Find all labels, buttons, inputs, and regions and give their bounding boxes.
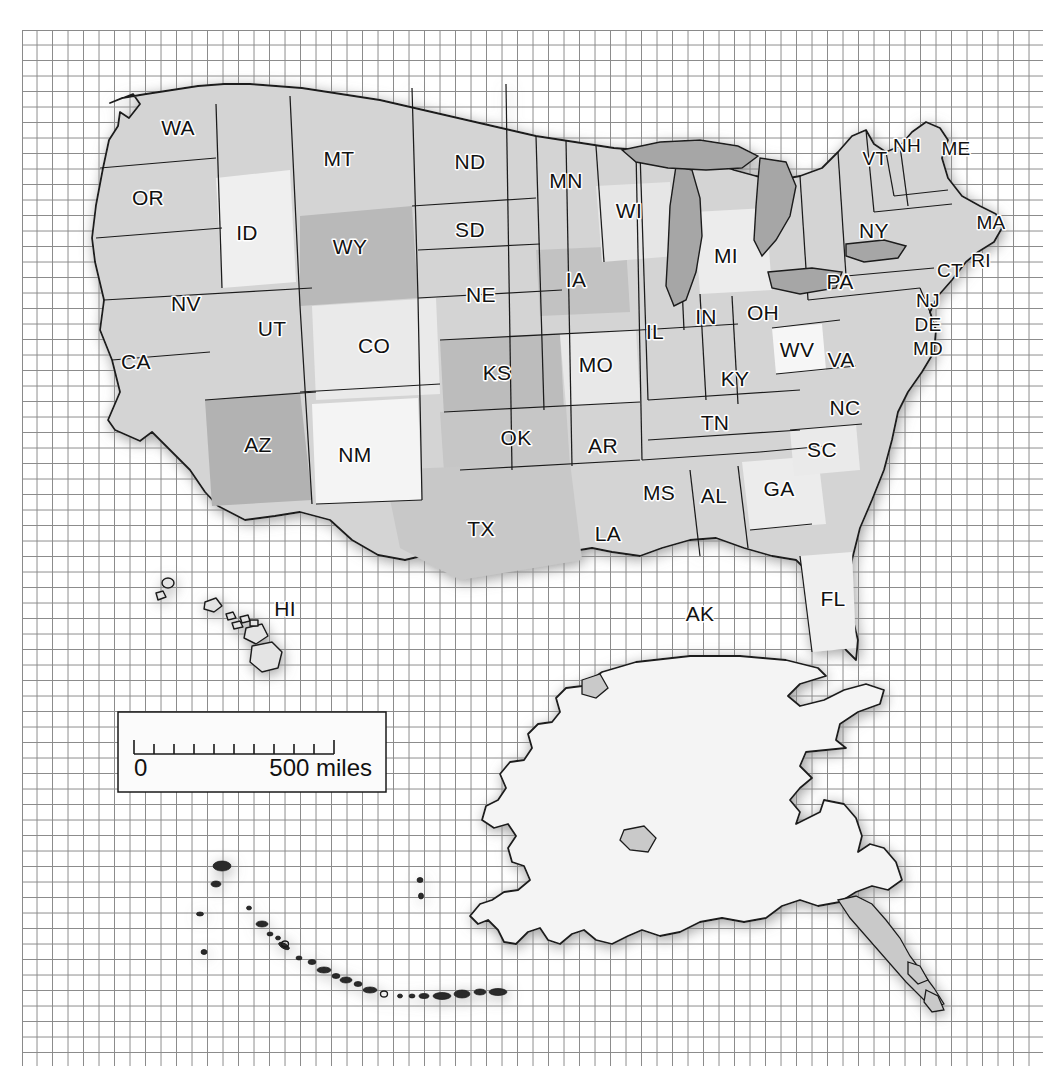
state-label-me[interactable]: ME [941,138,970,159]
state-label-tn[interactable]: TN [701,411,730,434]
scale-bar-max-label: 500 miles [269,754,372,781]
state-label-ar[interactable]: AR [588,434,618,457]
state-label-ms[interactable]: MS [643,481,675,504]
state-label-md[interactable]: MD [913,338,943,359]
state-label-mo[interactable]: MO [579,353,613,376]
state-label-ny[interactable]: NY [859,219,889,242]
state-label-oh[interactable]: OH [747,301,779,324]
state-label-id[interactable]: ID [236,221,258,244]
state-label-ct[interactable]: CT [937,260,963,281]
state-label-sd[interactable]: SD [455,218,485,241]
lake-ontario [846,240,906,262]
state-label-wy[interactable]: WY [333,235,367,258]
state-label-az[interactable]: AZ [244,433,271,456]
state-label-va[interactable]: VA [827,348,854,371]
state-label-mt[interactable]: MT [324,147,355,170]
state-label-nd[interactable]: ND [455,150,486,173]
state-label-mn[interactable]: MN [549,169,582,192]
state-label-ca[interactable]: CA [121,350,151,373]
state-label-fl[interactable]: FL [820,587,845,610]
map-canvas: WAORIDMTWYNVUTCOCAAZNMNDSDNEKSOKTXMNIAMO… [0,0,1054,1066]
state-label-ks[interactable]: KS [483,361,512,384]
state-label-ok[interactable]: OK [501,426,532,449]
state-label-ma[interactable]: MA [976,212,1005,233]
state-label-wi[interactable]: WI [616,199,642,222]
state-label-wv[interactable]: WV [780,338,814,361]
state-label-hi[interactable]: HI [274,597,296,620]
state-label-or[interactable]: OR [132,186,164,209]
state-label-ne[interactable]: NE [466,283,496,306]
state-label-ky[interactable]: KY [721,367,750,390]
state-label-nh[interactable]: NH [893,135,921,156]
scale-bar: 0 500 miles [118,712,386,792]
state-label-al[interactable]: AL [701,484,727,507]
state-label-sc[interactable]: SC [807,438,837,461]
state-label-wa[interactable]: WA [161,116,195,139]
state-label-ga[interactable]: GA [764,477,795,500]
state-label-mi[interactable]: MI [714,244,738,267]
state-label-in[interactable]: IN [695,305,717,328]
state-label-ut[interactable]: UT [258,317,287,340]
state-label-il[interactable]: IL [646,320,664,343]
us-states-map[interactable]: WAORIDMTWYNVUTCOCAAZNMNDSDNEKSOKTXMNIAMO… [0,0,1054,1066]
state-label-ak[interactable]: AK [686,602,715,625]
state-label-vt[interactable]: VT [863,148,888,169]
state-label-co[interactable]: CO [358,334,390,357]
state-label-nv[interactable]: NV [171,292,201,315]
state-label-tx[interactable]: TX [467,517,494,540]
state-label-de[interactable]: DE [915,314,942,335]
state-label-nm[interactable]: NM [338,443,371,466]
scale-bar-min-label: 0 [134,754,147,781]
state-label-ri[interactable]: RI [971,250,991,271]
state-label-ia[interactable]: IA [566,268,586,291]
state-label-nj[interactable]: NJ [916,290,940,311]
state-label-nc[interactable]: NC [830,396,861,419]
state-label-pa[interactable]: PA [826,270,853,293]
state-label-la[interactable]: LA [595,522,621,545]
